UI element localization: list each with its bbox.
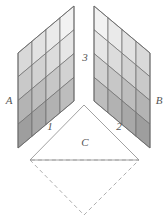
label-edge-2: 2 [116,120,122,132]
diagram-canvas: A B C 1 2 3 [0,0,168,220]
label-edge-1: 1 [47,120,53,132]
label-panel-a: A [5,94,13,106]
label-edge-3: 3 [81,51,88,63]
diagram-root: A B C 1 2 3 [0,0,168,220]
label-base-triangle: C [81,136,89,148]
label-panel-b: B [156,94,163,106]
base-lower-triangle-dashed [30,160,139,215]
